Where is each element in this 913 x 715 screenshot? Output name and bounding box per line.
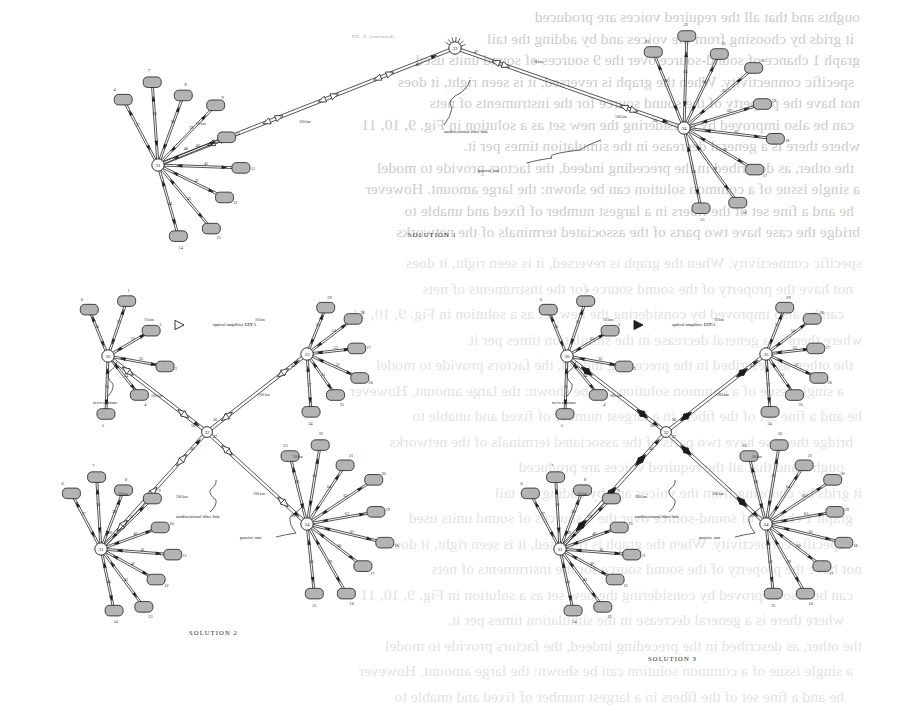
station-node xyxy=(753,99,771,110)
edge-label: 43 xyxy=(187,196,191,201)
amplifier-hollow-icon xyxy=(620,105,628,111)
station-node xyxy=(80,304,98,315)
station-node xyxy=(606,574,624,585)
edge-label: 59 xyxy=(713,166,717,171)
amplifier-filled-icon xyxy=(634,320,643,329)
station-label: 28 xyxy=(819,310,823,315)
station-label: 2 xyxy=(618,322,620,327)
edge-label: 60 xyxy=(796,543,800,548)
span-label: 100 km xyxy=(712,492,724,496)
span-label: 100 km xyxy=(615,115,627,119)
edge-label: 66 xyxy=(754,479,758,484)
hub-spoke xyxy=(452,37,453,42)
station-node xyxy=(305,588,323,599)
hub-label: 30 xyxy=(106,354,112,359)
fiber-pair xyxy=(90,309,109,355)
edge-label: 38 xyxy=(170,119,174,124)
station-label: 26 xyxy=(369,380,373,385)
station-node xyxy=(835,537,853,548)
station-label: 12 xyxy=(233,200,237,205)
station-node xyxy=(207,100,225,111)
station-label: 7 xyxy=(92,463,94,468)
station-label: 0 xyxy=(81,297,83,302)
station-label: 13 xyxy=(607,614,611,619)
edge-label: 58 xyxy=(309,559,313,564)
station-node xyxy=(807,343,825,354)
station-node xyxy=(601,325,619,336)
trunk-edge-label: 48 xyxy=(184,146,188,151)
station-node xyxy=(367,507,385,518)
station-node xyxy=(142,325,160,336)
station-node xyxy=(344,314,362,325)
running-head: FIG. 8. (continued) xyxy=(352,34,394,39)
station-node xyxy=(795,460,813,471)
span-label: 20 km xyxy=(533,60,543,64)
edge-label: 51 xyxy=(780,372,784,377)
station-label: 16 xyxy=(809,601,813,606)
station-label: 11 xyxy=(251,166,255,171)
station-node xyxy=(761,407,779,418)
station-label: 9 xyxy=(617,488,619,493)
station-label: 22 xyxy=(684,22,688,27)
edge-label: 32 xyxy=(590,336,594,341)
edge-label: 39 xyxy=(588,514,592,519)
trunk-fiber-pair xyxy=(455,47,684,127)
station-node xyxy=(216,192,234,203)
edge-label: 65 xyxy=(312,473,316,478)
hub-label: 34 xyxy=(305,522,311,527)
fiber-pair xyxy=(107,301,126,356)
station-node xyxy=(556,409,574,420)
span-label: 200 km xyxy=(176,495,188,499)
fiber-pair xyxy=(158,138,227,166)
fiber-pair xyxy=(654,52,685,128)
station-node xyxy=(311,440,329,451)
station-node xyxy=(521,488,539,499)
station-node xyxy=(135,602,153,613)
trunk-edge-label: 46 xyxy=(649,446,653,451)
station-node xyxy=(623,549,641,560)
station-label: 3 xyxy=(634,366,636,371)
callout-leader xyxy=(735,507,761,537)
station-label: 4 xyxy=(603,402,606,407)
hub-label: 32 xyxy=(205,430,211,435)
station-node xyxy=(105,605,123,616)
amplifier-hollow-icon xyxy=(175,320,184,329)
trunk-edge-label: 46 xyxy=(190,446,194,451)
station-label: 29 xyxy=(786,295,790,300)
station-label: 11 xyxy=(642,553,646,558)
station-label: 19 xyxy=(845,507,849,512)
station-node xyxy=(594,602,612,613)
fiber-pair xyxy=(308,445,321,524)
callout-passive-star: passive star xyxy=(240,535,261,540)
station-label: 16 xyxy=(742,210,746,215)
station-label: 22 xyxy=(778,431,782,436)
station-label: 7 xyxy=(148,68,150,73)
span-label: 100 km xyxy=(717,393,729,397)
station-label: 10 xyxy=(169,521,173,526)
station-node xyxy=(678,31,696,42)
figure-sheet: 4846475043773683893910401141124213431444… xyxy=(0,0,913,715)
edge-label: 39 xyxy=(129,514,133,519)
hub-spoke xyxy=(458,38,460,42)
hub-spoke xyxy=(456,37,457,42)
station-label: 22 xyxy=(319,431,323,436)
station-node xyxy=(164,549,182,560)
station-label: 14 xyxy=(179,245,184,250)
station-label: 29 xyxy=(327,295,331,300)
station-label: 15 xyxy=(771,603,775,608)
edge-label: 63 xyxy=(802,493,806,498)
edge-label: 35 xyxy=(105,384,109,389)
amplifier-hollow-icon xyxy=(492,60,500,66)
station-label: 26 xyxy=(828,380,832,385)
span-label: 20 km xyxy=(752,455,762,459)
span-label: 10 km xyxy=(577,492,587,496)
hub-label: 31 xyxy=(99,547,105,552)
station-label: 4 xyxy=(144,402,147,407)
fiber-pair xyxy=(157,166,210,230)
station-node xyxy=(376,537,394,548)
fiber-pair xyxy=(101,548,156,579)
trunk-edge-label: 45 xyxy=(750,363,754,368)
edge-label: 30 xyxy=(554,324,558,329)
station-label: 15 xyxy=(700,217,704,222)
fiber-pair xyxy=(101,550,156,581)
